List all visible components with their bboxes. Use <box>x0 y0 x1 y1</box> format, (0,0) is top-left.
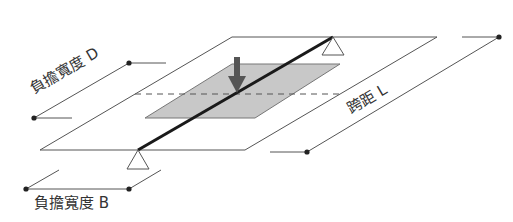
dimension-b-start-dot <box>23 186 28 191</box>
support-bottom-icon <box>127 150 149 169</box>
dimension-d-end-dot <box>126 60 131 65</box>
dimension-l-start-dot <box>304 149 309 154</box>
slab-beam-diagram <box>0 0 513 222</box>
support-top-icon <box>322 37 344 55</box>
dimension-b <box>23 170 161 192</box>
label-load-width-b: 負擔寬度 B <box>34 196 109 211</box>
dimension-d-start-dot <box>31 115 36 120</box>
dimension-b-end-dot <box>126 186 131 191</box>
dimension-l-end-dot <box>496 34 501 39</box>
